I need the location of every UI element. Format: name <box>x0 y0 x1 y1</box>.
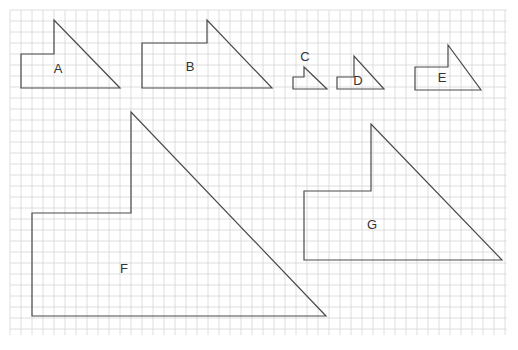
shape-label-b: B <box>186 59 195 74</box>
grid-paper <box>10 10 507 335</box>
shape-label-d: D <box>353 73 362 88</box>
shape-label-a: A <box>54 61 63 76</box>
shape-c: C <box>293 49 327 89</box>
shape-label-c: C <box>300 49 309 64</box>
shapes-group: ABCDEFG <box>21 20 502 316</box>
shape-outline-e <box>415 45 481 90</box>
shape-outline-c <box>293 67 327 89</box>
shape-label-e: E <box>438 70 447 85</box>
shape-label-g: G <box>367 217 377 232</box>
shape-e: E <box>415 45 481 90</box>
shape-label-f: F <box>120 261 128 276</box>
shapes-diagram: ABCDEFG <box>0 0 518 350</box>
shape-d: D <box>337 56 384 89</box>
